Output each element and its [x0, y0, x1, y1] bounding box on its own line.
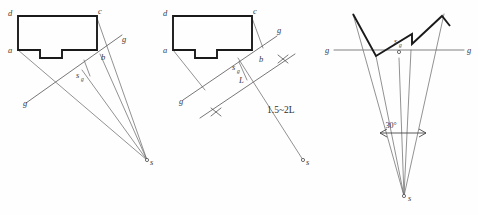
- svg-text:g: g: [237, 68, 240, 74]
- body-outline: [173, 16, 252, 58]
- ray-outer-right: [404, 14, 444, 196]
- charge-point-node: [145, 158, 148, 161]
- label-corner-c: c: [253, 6, 257, 16]
- ray-sg-to-s: [82, 70, 147, 160]
- figure-root: d a c b g g s g s: [0, 0, 478, 215]
- label-g-upper-right: g: [122, 34, 126, 44]
- panel2-rays: [173, 18, 263, 90]
- label-corner-d: d: [163, 8, 168, 18]
- panel-plan-view-single-hole: d a c b g g s g s: [0, 0, 155, 215]
- label-charge-point: s: [150, 157, 154, 167]
- label-length-L: L: [238, 75, 244, 85]
- label-charge-point: s: [408, 193, 412, 203]
- label-g-right: g: [467, 45, 471, 55]
- body-outline: [18, 16, 97, 58]
- svg-text:g: g: [399, 42, 402, 48]
- ray-inner-right: [404, 50, 411, 196]
- sg-node: [397, 50, 400, 53]
- svg-text:s: s: [232, 62, 236, 72]
- label-s-sub-g: s g: [76, 70, 84, 82]
- label-angle: 30°: [385, 121, 396, 130]
- charge-point-node: [402, 194, 405, 197]
- panel-section-view-angle: g g s g 30° s: [320, 0, 478, 215]
- label-corner-b: b: [101, 52, 105, 62]
- ray-a-short: [173, 50, 205, 90]
- svg-text:s: s: [394, 36, 398, 46]
- ray-b-to-s: [100, 54, 147, 160]
- charge-point-node: [301, 158, 304, 161]
- label-corner-a: a: [163, 45, 167, 55]
- label-corner-a: a: [8, 45, 12, 55]
- panel1-rays: [18, 18, 147, 160]
- svg-text:s: s: [76, 70, 80, 80]
- label-g-lower-left: g: [179, 96, 183, 106]
- label-g-lower-left: g: [23, 98, 27, 108]
- label-corner-b: b: [259, 54, 263, 64]
- label-corner-c: c: [98, 6, 102, 16]
- label-g-left: g: [325, 45, 329, 55]
- g-axis-line: [183, 36, 277, 100]
- label-spacing-note: 1.5~2L: [267, 105, 295, 115]
- svg-text:g: g: [81, 76, 84, 82]
- panel-plan-view-with-spacing: d a c b g g s g L 1.5~2L s: [155, 0, 320, 215]
- label-g-upper-right: g: [277, 25, 281, 35]
- ray-c-short: [252, 18, 263, 48]
- label-corner-d: d: [8, 8, 13, 18]
- cross-mark-lower-left: [211, 108, 221, 116]
- label-charge-point: s: [306, 157, 310, 167]
